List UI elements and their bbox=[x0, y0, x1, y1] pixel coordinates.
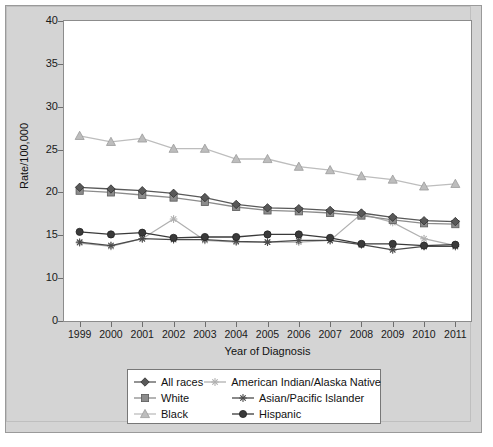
y-axis-tick-label: 10 bbox=[30, 272, 58, 283]
data-point-marker bbox=[421, 235, 428, 242]
y-axis-tick-label: 15 bbox=[30, 229, 58, 240]
plot-area bbox=[63, 20, 472, 322]
legend-label: White bbox=[161, 392, 189, 404]
legend-marker bbox=[133, 375, 157, 389]
data-point-marker bbox=[170, 216, 177, 223]
data-point-marker bbox=[107, 231, 114, 238]
legend-item-hispanic[interactable]: Hispanic bbox=[231, 406, 375, 422]
asterisk-marker-icon bbox=[203, 375, 227, 389]
y-axis-tick-label: 25 bbox=[30, 144, 58, 155]
circle-marker-icon bbox=[231, 407, 255, 421]
series-all-races bbox=[75, 183, 459, 226]
legend-item-white[interactable]: White bbox=[133, 390, 231, 406]
legend-label: Asian/Pacific Islander bbox=[259, 392, 364, 404]
y-axis-tick-labels: 010152025303540 bbox=[28, 0, 58, 447]
series-black bbox=[75, 131, 460, 190]
x-axis-tick-mark bbox=[330, 322, 331, 327]
y-axis-tick-label: 40 bbox=[30, 15, 58, 26]
x-axis-tick-mark bbox=[236, 322, 237, 327]
x-axis-tick-mark bbox=[174, 322, 175, 327]
legend-marker bbox=[133, 407, 157, 421]
x-axis-tick-mark bbox=[142, 322, 143, 327]
triangle-marker-icon bbox=[133, 407, 157, 421]
y-axis-tick-label: 35 bbox=[30, 58, 58, 69]
legend-marker bbox=[231, 407, 255, 421]
data-point-marker bbox=[75, 131, 84, 139]
legend-label: All races bbox=[161, 376, 203, 388]
x-axis-tick-label: 2011 bbox=[435, 328, 475, 340]
chart-legend: All racesAmerican Indian/Alaska NativeWh… bbox=[127, 369, 381, 424]
y-axis-tick-label: 30 bbox=[30, 101, 58, 112]
data-point-marker bbox=[76, 239, 83, 246]
square-marker-icon bbox=[133, 391, 157, 405]
data-point-marker bbox=[138, 134, 147, 142]
y-axis-tick-label: 0 bbox=[30, 315, 58, 326]
legend-label: Hispanic bbox=[259, 408, 301, 420]
data-point-marker bbox=[201, 233, 208, 240]
data-point-marker bbox=[452, 241, 459, 248]
data-point-marker bbox=[295, 231, 302, 238]
legend-label: Black bbox=[161, 408, 188, 420]
data-point-marker bbox=[139, 229, 146, 236]
legend-item-all-races[interactable]: All races bbox=[133, 374, 203, 390]
legend-item-american-indian-alaska-native[interactable]: American Indian/Alaska Native bbox=[203, 374, 381, 390]
x-axis-tick-mark bbox=[268, 322, 269, 327]
legend-marker bbox=[231, 391, 255, 405]
data-point-marker bbox=[233, 233, 240, 240]
data-point-marker bbox=[240, 395, 247, 402]
data-point-marker bbox=[170, 234, 177, 241]
legend-row: All racesAmerican Indian/Alaska Native bbox=[133, 374, 375, 390]
data-point-marker bbox=[212, 379, 219, 386]
data-point-marker bbox=[389, 240, 396, 247]
legend-row: WhiteAsian/Pacific Islander bbox=[133, 390, 375, 406]
x-axis-tick-mark bbox=[455, 322, 456, 327]
data-point-marker bbox=[141, 378, 149, 386]
data-point-marker bbox=[108, 242, 115, 249]
asterisk-marker-icon bbox=[231, 391, 255, 405]
y-axis-tick-label: 20 bbox=[30, 186, 58, 197]
data-point-marker bbox=[264, 231, 271, 238]
legend-label: American Indian/Alaska Native bbox=[231, 376, 381, 388]
data-point-marker bbox=[264, 239, 271, 246]
legend-row: BlackHispanic bbox=[133, 406, 375, 422]
legend-marker bbox=[203, 375, 227, 389]
x-axis-title: Year of Diagnosis bbox=[63, 345, 472, 357]
x-axis-tick-mark bbox=[424, 322, 425, 327]
x-axis-tick-mark bbox=[393, 322, 394, 327]
x-axis-tick-mark bbox=[80, 322, 81, 327]
chart-figure: 010152025303540 Rate/100,000 19992000200… bbox=[0, 0, 493, 447]
data-point-marker bbox=[141, 394, 148, 401]
data-point-marker bbox=[239, 410, 246, 417]
x-axis-tick-mark bbox=[299, 322, 300, 327]
data-point-marker bbox=[420, 242, 427, 249]
series-layer bbox=[64, 21, 471, 321]
legend-item-black[interactable]: Black bbox=[133, 406, 231, 422]
data-point-marker bbox=[76, 228, 83, 235]
data-point-marker bbox=[327, 234, 334, 241]
legend-marker bbox=[133, 391, 157, 405]
x-axis-tick-mark bbox=[361, 322, 362, 327]
x-axis-tick-mark bbox=[111, 322, 112, 327]
data-point-marker bbox=[451, 179, 460, 187]
diamond-marker-icon bbox=[133, 375, 157, 389]
data-point-marker bbox=[358, 240, 365, 247]
x-axis-tick-mark bbox=[205, 322, 206, 327]
legend-item-asian-pacific-islander[interactable]: Asian/Pacific Islander bbox=[231, 390, 375, 406]
y-axis-title: Rate/100,000 bbox=[18, 86, 30, 226]
